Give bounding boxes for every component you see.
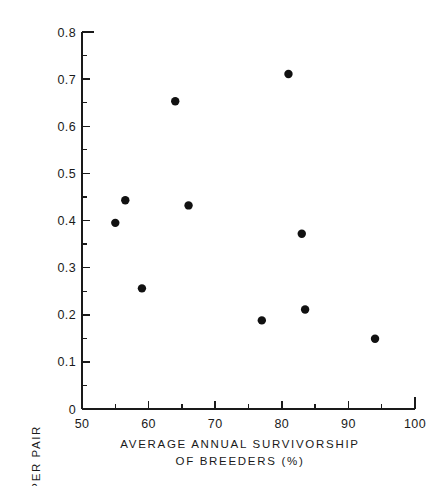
data-point [171, 97, 179, 105]
tick-labels-group: 00.10.20.30.40.50.60.70.85060708090100 [57, 26, 426, 432]
x-tick-label: 100 [404, 417, 426, 431]
plot-canvas: 00.10.20.30.40.50.60.70.85060708090100 [0, 0, 439, 436]
data-point [111, 219, 119, 227]
y-tick-label: 0 [69, 403, 76, 417]
y-tick-label: 0.2 [57, 308, 76, 322]
axes-group [82, 32, 415, 409]
data-points-group [111, 70, 379, 343]
x-axis-label-line-2: OF BREEDERS (%) [60, 453, 420, 470]
data-point [284, 70, 292, 78]
plot-area-container: 00.10.20.30.40.50.60.70.85060708090100 [0, 0, 439, 436]
x-tick-label: 80 [274, 417, 289, 431]
data-point [121, 196, 129, 204]
y-tick-label: 0.5 [57, 167, 76, 181]
x-axis-label: AVERAGE ANNUAL SURVIVORSHIP OF BREEDERS … [60, 436, 420, 470]
x-axis-label-line-1: AVERAGE ANNUAL SURVIVORSHIP [60, 436, 420, 453]
y-tick-label: 0.7 [57, 73, 76, 87]
data-point [301, 305, 309, 313]
y-tick-label: 0.3 [57, 261, 76, 275]
y-tick-label: 0.1 [57, 355, 76, 369]
x-tick-label: 50 [75, 417, 90, 431]
scatter-plot-figure: AVERAGE ANNUAL NUMBER OF CRECHLINGS PER … [0, 0, 439, 486]
y-tick-label: 0.4 [57, 214, 76, 228]
data-point [258, 316, 266, 324]
tick-marks-group [82, 32, 415, 409]
y-tick-label: 0.6 [57, 120, 76, 134]
y-tick-label: 0.8 [57, 26, 76, 40]
data-point [184, 201, 192, 209]
x-tick-label: 90 [341, 417, 356, 431]
x-tick-label: 70 [208, 417, 223, 431]
data-point [371, 335, 379, 343]
data-point [138, 284, 146, 292]
data-point [298, 229, 306, 237]
x-tick-label: 60 [141, 417, 156, 431]
